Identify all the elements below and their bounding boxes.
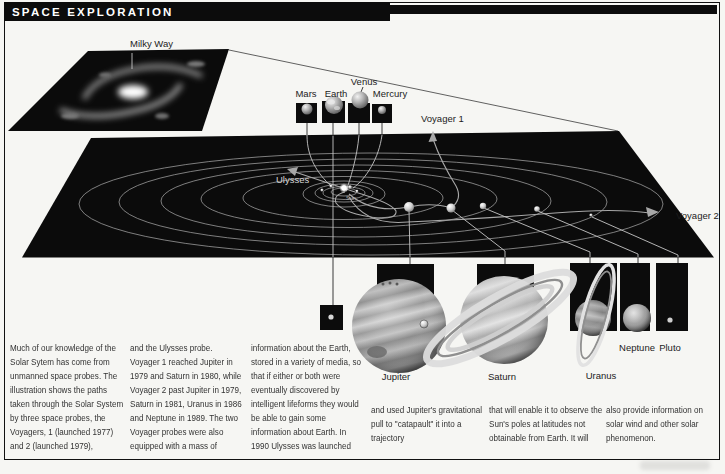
- solar-system-field: [22, 131, 714, 258]
- scan-smudge: [640, 461, 710, 470]
- body-column-6: also provide information on solar wind a…: [606, 403, 717, 445]
- saturn-label: Saturn: [488, 371, 516, 382]
- pluto-on-orbit: [589, 213, 592, 216]
- sun-core: [342, 186, 347, 191]
- milky-way-panel: [8, 49, 229, 131]
- neptune-label: Neptune: [619, 342, 655, 353]
- earth-label: Earth: [325, 88, 348, 99]
- body-column-4: and used Jupiter's gravitational pull to…: [371, 403, 485, 445]
- outer-planet-gallery: [352, 258, 688, 378]
- saturn-on-orbit: [447, 204, 456, 213]
- mercury-label: Mercury: [373, 88, 407, 99]
- venus-label: Venus: [351, 76, 377, 87]
- mars-sphere: [302, 104, 313, 115]
- uranus-on-orbit: [480, 203, 486, 209]
- mars-label: Mars: [295, 88, 316, 99]
- body-column-3: information about the Earth, stored in a…: [251, 341, 365, 453]
- jupiter-label: Jupiter: [382, 371, 411, 382]
- earth-scale-box: [320, 305, 343, 330]
- jupiter-image: [352, 279, 446, 373]
- ulysses-label: Ulysses: [276, 174, 309, 185]
- body-column-5: that will enable it to observe the Sun's…: [489, 403, 603, 445]
- mercury-sphere: [378, 106, 386, 114]
- pluto-image: [667, 317, 672, 322]
- body-column-2: and the Ulysses probe. Voyager 1 reached…: [130, 341, 244, 453]
- jupiter-on-orbit: [404, 202, 414, 212]
- sun-label: Sun: [346, 195, 356, 201]
- venus-sphere: [352, 92, 369, 109]
- pluto-label: Pluto: [659, 342, 681, 353]
- neptune-on-orbit: [534, 206, 540, 212]
- body-column-1: Much of our knowledge of the Solar Sytem…: [10, 341, 124, 453]
- milky-way-label: Milky Way: [130, 38, 173, 49]
- neptune-image: [623, 304, 651, 332]
- voyager2-label: Voyager 2: [676, 210, 719, 221]
- encyclopedia-page: SPACE EXPLORATION: [0, 0, 725, 474]
- uranus-label: Uranus: [586, 370, 617, 381]
- voyager1-label: Voyager 1: [421, 113, 464, 124]
